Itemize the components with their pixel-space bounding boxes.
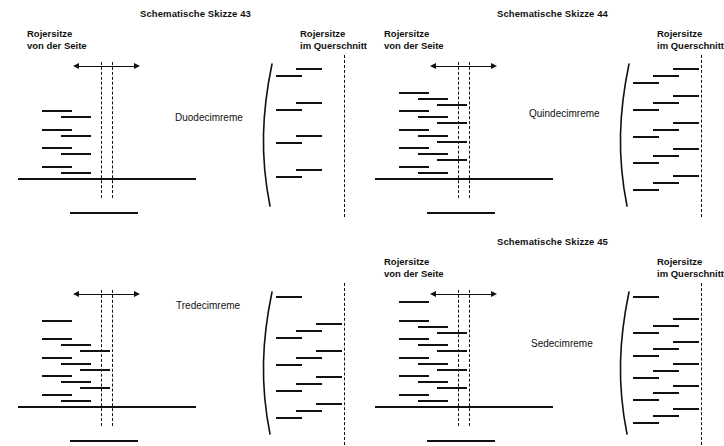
oar-stroke [653, 102, 679, 104]
oar-stroke [296, 102, 322, 104]
oar-stroke [42, 375, 72, 377]
oar-stroke [673, 341, 699, 343]
oar-stroke [61, 172, 91, 174]
oar-stroke [399, 375, 429, 377]
cross-section-diagram [597, 228, 714, 446]
oar-stroke [399, 357, 429, 359]
oar-stroke [418, 153, 448, 155]
sketch-tredecimreme: Tredecimreme [0, 228, 357, 446]
oar-stroke [276, 296, 302, 298]
oar-stroke [673, 318, 699, 320]
arrow-head-right-icon [134, 291, 140, 297]
oar-stroke [296, 169, 322, 171]
oar-stroke [673, 408, 699, 410]
oar-stroke [316, 376, 342, 378]
width-arrow-bar [436, 294, 491, 295]
oar-stroke [633, 136, 659, 138]
oar-stroke [80, 369, 110, 371]
oar-stroke [316, 350, 342, 352]
oar-stroke [633, 296, 659, 298]
oar-stroke [42, 394, 72, 396]
oar-stroke [42, 166, 72, 168]
oar-stroke [437, 350, 467, 352]
oar-stroke [633, 332, 659, 334]
oar-stroke [418, 172, 448, 174]
oar-stroke [42, 110, 72, 112]
oar-stroke [437, 369, 467, 371]
keel-line [427, 212, 495, 214]
oar-stroke [296, 410, 322, 412]
oar-stroke [61, 344, 91, 346]
cross-section-diagram [240, 0, 357, 218]
oar-stroke [296, 68, 322, 70]
oar-stroke [437, 122, 467, 124]
keel-line [70, 212, 138, 214]
arrow-head-right-icon [491, 291, 497, 297]
arrow-head-left-icon [73, 63, 79, 69]
oar-stroke [653, 325, 679, 327]
oar-stroke [418, 98, 448, 100]
oar-stroke [418, 363, 448, 365]
oar-stroke [418, 400, 448, 402]
arrow-head-right-icon [491, 63, 497, 69]
sketch-45: Schematische Skizze 45Rojersitzevon der … [357, 228, 714, 446]
oar-stroke [633, 82, 659, 84]
oar-stroke [276, 176, 302, 178]
side-view-diagram [357, 0, 577, 218]
oar-stroke [42, 338, 72, 340]
oar-stroke [633, 162, 659, 164]
side-view-diagram [0, 228, 220, 446]
oar-stroke [399, 129, 429, 131]
oar-stroke [653, 129, 679, 131]
oar-stroke [653, 348, 679, 350]
side-view-diagram [0, 0, 220, 218]
oar-stroke [399, 301, 429, 303]
oar-stroke [673, 148, 699, 150]
oar-stroke [276, 75, 302, 77]
oar-stroke [61, 363, 91, 365]
arrow-head-left-icon [430, 291, 436, 297]
oar-stroke [399, 394, 429, 396]
cross-section-diagram [597, 0, 714, 218]
oar-stroke [399, 92, 429, 94]
oar-stroke [418, 135, 448, 137]
oar-stroke [399, 147, 429, 149]
width-arrow-bar [79, 66, 134, 67]
oar-stroke [42, 320, 72, 322]
oar-stroke [673, 68, 699, 70]
oar-stroke [653, 75, 679, 77]
waterline [375, 178, 553, 180]
oar-stroke [316, 323, 342, 325]
oar-stroke [653, 155, 679, 157]
keel-line [70, 440, 138, 442]
oar-stroke [61, 135, 91, 137]
oar-stroke [633, 399, 659, 401]
width-arrow-bar [436, 66, 491, 67]
oar-stroke [276, 337, 302, 339]
sketch-44: Schematische Skizze 44Rojersitzevon der … [357, 0, 714, 218]
oar-stroke [399, 166, 429, 168]
oar-stroke [653, 392, 679, 394]
oar-stroke [418, 326, 448, 328]
oar-stroke [276, 417, 302, 419]
oar-stroke [653, 370, 679, 372]
oar-stroke [633, 189, 659, 191]
oar-stroke [673, 385, 699, 387]
oar-stroke [633, 422, 659, 424]
oar-stroke [418, 381, 448, 383]
oar-stroke [633, 109, 659, 111]
oar-stroke [42, 147, 72, 149]
oar-stroke [42, 129, 72, 131]
waterline [18, 406, 196, 408]
oar-stroke [437, 141, 467, 143]
oar-stroke [673, 363, 699, 365]
oar-stroke [61, 116, 91, 118]
oar-stroke [673, 175, 699, 177]
oar-stroke [399, 320, 429, 322]
sketch-43: Schematische Skizze 43Rojersitzevon der … [0, 0, 357, 218]
oar-stroke [633, 355, 659, 357]
oar-stroke [418, 116, 448, 118]
oar-stroke [61, 400, 91, 402]
oar-stroke [437, 159, 467, 161]
oar-stroke [276, 364, 302, 366]
